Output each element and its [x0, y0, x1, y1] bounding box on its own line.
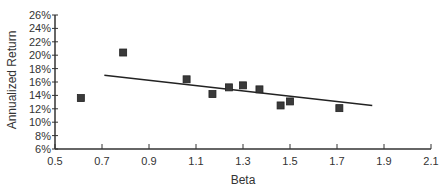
x-axis-title: Beta [231, 173, 256, 187]
scatter-chart: 6%8%10%12%14%16%18%20%22%24%26% 0.50.70.… [0, 0, 446, 193]
square-marker [240, 82, 247, 89]
square-marker [277, 102, 284, 109]
trendline [104, 75, 372, 105]
square-marker [256, 86, 263, 93]
x-tick-label: 0.7 [94, 155, 109, 167]
y-tick-label: 24% [29, 22, 51, 34]
square-marker [209, 91, 216, 98]
x-axis: 0.50.70.91.11.31.51.71.92.1 [47, 144, 438, 167]
y-tick-label: 12% [29, 103, 51, 115]
y-axis-title: Annualized Return [5, 31, 19, 130]
x-tick-label: 1.7 [329, 155, 344, 167]
y-tick-label: 18% [29, 63, 51, 75]
regression-line [104, 75, 372, 105]
square-marker [77, 95, 84, 102]
square-marker [120, 49, 127, 56]
data-points [77, 49, 343, 112]
x-tick-label: 0.9 [141, 155, 156, 167]
square-marker [287, 98, 294, 105]
x-tick-label: 1.1 [188, 155, 203, 167]
y-tick-label: 14% [29, 89, 51, 101]
square-marker [225, 84, 232, 91]
x-tick-label: 0.5 [47, 155, 62, 167]
y-tick-label: 16% [29, 76, 51, 88]
square-marker [183, 76, 190, 83]
y-tick-label: 22% [29, 36, 51, 48]
y-axis: 6%8%10%12%14%16%18%20%22%24%26% [29, 9, 58, 155]
y-tick-label: 26% [29, 9, 51, 21]
x-tick-label: 2.1 [423, 155, 438, 167]
square-marker [336, 105, 343, 112]
y-tick-label: 20% [29, 49, 51, 61]
y-tick-label: 10% [29, 116, 51, 128]
x-tick-label: 1.5 [282, 155, 297, 167]
x-tick-label: 1.3 [235, 155, 250, 167]
x-tick-label: 1.9 [376, 155, 391, 167]
y-tick-label: 8% [35, 130, 51, 142]
y-tick-label: 6% [35, 143, 51, 155]
